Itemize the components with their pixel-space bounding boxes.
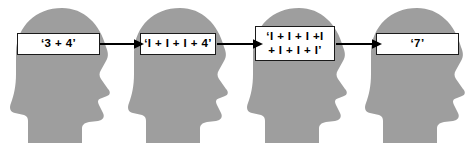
arrow-right-icon [217,38,263,50]
diagram-stage: ‘3 + 4’ ‘I + I + I + 4’ ‘I + I + I +I + … [0,0,473,143]
arrow-right-icon [100,38,144,50]
thought-box-step-2-line-1: ‘I + I + I + 4’ [144,37,212,51]
thought-box-step-4: ‘7’ [376,33,459,55]
diagram-canvas: ‘3 + 4’ ‘I + I + I + 4’ ‘I + I + I +I + … [0,0,473,143]
thought-box-step-4-line-1: ‘7’ [411,37,425,51]
thought-box-step-3: ‘I + I + I +I + I + I + I’ [255,26,335,61]
thought-box-step-1: ‘3 + 4’ [17,33,100,55]
arrow-right-icon [336,38,382,50]
head-profile-icon [243,0,355,143]
thought-box-step-3-line-2: + I + I + I’ [268,44,322,58]
head-profile-icon [124,0,236,143]
thought-box-step-1-line-1: ‘3 + 4’ [41,37,76,51]
head-profile-icon [361,0,473,143]
thought-box-step-2: ‘I + I + I + 4’ [140,33,216,55]
head-profile-icon [6,0,118,143]
thought-box-step-3-line-1: ‘I + I + I +I [266,30,323,44]
